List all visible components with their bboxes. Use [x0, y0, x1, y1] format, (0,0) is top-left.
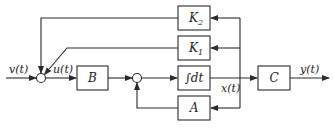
block-a-label: A: [189, 101, 199, 115]
block-c-label: C: [269, 71, 278, 85]
input-label: v(t): [9, 63, 28, 76]
output-label: y(t): [299, 63, 319, 76]
summing-junction-2: [133, 74, 142, 83]
state-label: x(t): [221, 82, 240, 95]
block-integrator-label: ∫dt: [185, 71, 204, 85]
block-b-label: B: [87, 71, 97, 85]
summing-junction-1: [37, 74, 46, 83]
a-feedback-wire: [137, 83, 178, 108]
state-feedback-block-diagram: v(t) u(t) B ∫dt x(t) C y(t) K2 K1 A: [0, 0, 334, 128]
control-label: u(t): [53, 63, 73, 76]
